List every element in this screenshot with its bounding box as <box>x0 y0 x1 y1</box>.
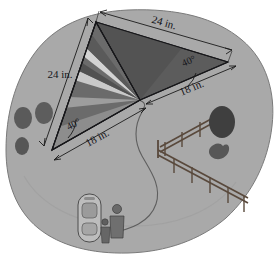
bush <box>35 102 53 124</box>
label-left-length: 24 in. <box>47 68 72 80</box>
bush <box>14 107 32 129</box>
car <box>78 194 101 242</box>
bush <box>209 106 235 138</box>
bush <box>15 137 29 155</box>
figure-root: 24 in. 24 in. 18 in. 18 in. 40° 40° <box>0 0 279 262</box>
geometry-illustration: 24 in. 24 in. 18 in. 18 in. 40° 40° <box>0 0 279 262</box>
